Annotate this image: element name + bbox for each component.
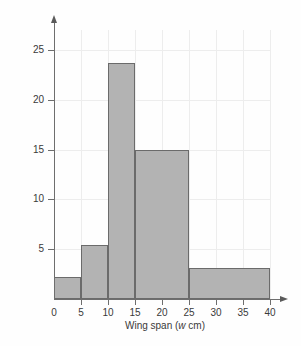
y-axis-tick-label: 5 — [14, 243, 44, 254]
x-axis-label-prefix: Wing span ( — [125, 320, 178, 331]
x-axis-tick — [108, 299, 109, 305]
x-axis-tick — [81, 299, 82, 305]
x-axis-tick — [135, 299, 136, 305]
x-axis-tick-label: 15 — [122, 307, 148, 318]
x-axis-tick — [216, 299, 217, 305]
x-axis-tick-label: 25 — [176, 307, 202, 318]
gridline-vertical — [243, 30, 244, 299]
x-axis-tick — [189, 299, 190, 305]
x-axis-label: Wing span (w cm) — [40, 320, 290, 331]
x-axis-label-variable: w — [178, 320, 185, 331]
y-axis-tick-label: 10 — [14, 193, 44, 204]
x-axis-line — [54, 299, 281, 300]
histogram-bar — [54, 277, 81, 299]
histogram-bar — [81, 245, 108, 299]
x-axis-arrow-icon — [280, 296, 288, 302]
histogram-bar — [108, 63, 135, 299]
histogram-figure: Frequency density 5101520250510152025303… — [0, 0, 301, 346]
x-axis-tick — [243, 299, 244, 305]
y-axis-line — [54, 22, 55, 299]
x-axis-tick-label: 30 — [203, 307, 229, 318]
y-axis-tick — [48, 100, 54, 101]
y-axis-tick-label: 20 — [14, 94, 44, 105]
x-axis-tick-label: 40 — [257, 307, 283, 318]
gridline-vertical — [270, 30, 271, 299]
x-axis-tick-label: 5 — [68, 307, 94, 318]
x-axis-tick-label: 20 — [149, 307, 175, 318]
y-axis-arrow-icon — [51, 15, 57, 23]
y-axis-tick — [48, 150, 54, 151]
x-axis-tick-label: 0 — [41, 307, 67, 318]
x-axis-tick-label: 10 — [95, 307, 121, 318]
x-axis-tick — [162, 299, 163, 305]
gridline-vertical — [216, 30, 217, 299]
y-axis-tick-label: 25 — [14, 44, 44, 55]
y-axis-tick — [48, 199, 54, 200]
y-axis-tick — [48, 50, 54, 51]
y-axis-tick — [48, 249, 54, 250]
x-axis-label-suffix: cm) — [186, 320, 205, 331]
x-axis-tick — [270, 299, 271, 305]
gridline-vertical — [189, 30, 190, 299]
plot-area — [54, 30, 270, 299]
x-axis-tick-label: 35 — [230, 307, 256, 318]
histogram-bar — [135, 150, 189, 299]
histogram-bar — [189, 268, 270, 299]
y-axis-tick-label: 15 — [14, 144, 44, 155]
